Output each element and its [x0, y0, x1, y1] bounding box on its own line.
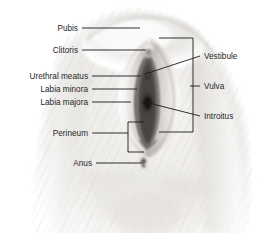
label-pubis: Pubis	[57, 24, 78, 33]
label-vestibule: Vestibule	[204, 52, 237, 61]
label-perineum: Perineum	[53, 129, 88, 138]
label-clitoris: Clitoris	[53, 46, 78, 55]
anatomy-figure: Pubis Clitoris Urethral meatus Labia min…	[0, 0, 266, 233]
label-urethral-meatus: Urethral meatus	[29, 72, 88, 81]
label-vulva: Vulva	[204, 82, 224, 91]
label-introitus: Introitus	[204, 112, 233, 121]
label-anus: Anus	[73, 159, 92, 168]
label-labia-minora: Labia minora	[40, 85, 88, 94]
label-labia-majora: Labia majora	[40, 98, 88, 107]
